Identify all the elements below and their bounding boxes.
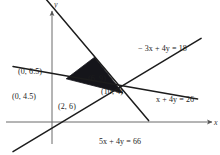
point-label-6-9: (6, 9) (88, 75, 106, 83)
y-axis-label: y (54, 0, 58, 9)
equation-label-neg3x-4y-18: − 3x + 4y = 18 (138, 45, 187, 53)
equation-label-5x-4y-66: 5x + 4y = 66 (99, 138, 141, 146)
point-label-0-6.5: (0, 6.5) (18, 68, 42, 76)
graph-figure: y x − 3x + 4y = 18 x + 4y = 26 5x + 4y =… (0, 0, 220, 155)
equation-label-x-4y-26: x + 4y = 26 (156, 96, 194, 104)
scan-artifact (1, 0, 6, 9)
point-label-0-4.5: (0, 4.5) (12, 93, 36, 101)
x-axis-label: x (214, 118, 218, 127)
point-label-2-6: (2, 6) (58, 103, 76, 111)
coordinate-plot (0, 0, 220, 155)
point-label-10-4: (10, 4) (101, 88, 123, 96)
